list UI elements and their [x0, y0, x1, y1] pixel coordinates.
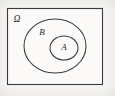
set-label-a: A — [60, 42, 67, 52]
universe-label-omega: Ω — [14, 14, 21, 24]
venn-diagram-figure: Ω B A — [0, 0, 115, 96]
set-label-b: B — [39, 27, 45, 37]
venn-diagram-canvas: Ω B A — [0, 0, 115, 96]
